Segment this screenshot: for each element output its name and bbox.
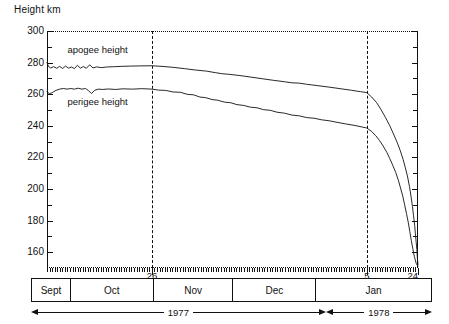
day-tick [67, 268, 68, 272]
day-tick [395, 268, 396, 272]
day-tick-major-24 [418, 268, 419, 275]
day-tick [270, 268, 271, 272]
day-tick [288, 268, 289, 272]
day-tick [259, 268, 260, 272]
year-rule [193, 312, 319, 313]
day-tick [47, 268, 48, 272]
day-tick [180, 268, 181, 272]
day-tick [403, 268, 404, 272]
day-tick [331, 268, 332, 272]
day-tick [183, 268, 184, 272]
day-tick [90, 268, 91, 272]
day-tick [234, 268, 235, 272]
day-tick [241, 268, 242, 272]
day-tick [349, 268, 350, 272]
day-tick [280, 268, 281, 272]
day-tick [334, 268, 335, 272]
year-rule [333, 312, 365, 313]
day-tick [254, 268, 255, 272]
series-apogee-height [47, 63, 418, 265]
day-tick [387, 268, 388, 272]
day-tick [382, 268, 383, 272]
year-rule [393, 312, 425, 313]
day-tick [285, 268, 286, 272]
y-tick-label-220: 220 [27, 152, 44, 162]
day-tick [272, 268, 273, 272]
day-tick [142, 268, 143, 272]
day-tick [203, 268, 204, 272]
day-tick [244, 268, 245, 272]
month-cell-oct: Oct [71, 279, 154, 301]
day-tick [398, 268, 399, 272]
day-tick [139, 268, 140, 272]
day-tick [116, 268, 117, 272]
y-tick-label-300: 300 [27, 26, 44, 36]
day-tick [262, 268, 263, 272]
arrow-left-icon [31, 309, 38, 315]
plot-area: 300280260240220200180160 apogee height p… [47, 31, 418, 268]
day-tick [252, 268, 253, 272]
day-tick [60, 268, 61, 272]
day-tick [52, 268, 53, 272]
day-tick [311, 268, 312, 272]
day-tick [377, 268, 378, 272]
year-label-1978: 1978 [364, 307, 393, 318]
day-tick [190, 268, 191, 272]
day-tick [336, 268, 337, 272]
day-tick [375, 268, 376, 272]
day-tick [351, 268, 352, 272]
day-tick [70, 268, 71, 272]
day-tick [231, 268, 232, 272]
day-tick [55, 268, 56, 272]
arrow-left-icon [326, 309, 333, 315]
day-tick [277, 268, 278, 272]
day-tick [282, 268, 283, 272]
day-tick [339, 268, 340, 272]
day-tick [188, 268, 189, 272]
day-tick [390, 268, 391, 272]
day-tick [229, 268, 230, 272]
day-tick [326, 268, 327, 272]
day-tick [80, 268, 81, 272]
day-tick [313, 268, 314, 272]
day-tick [198, 268, 199, 272]
day-tick [346, 268, 347, 272]
day-tick [73, 268, 74, 272]
day-tick [341, 268, 342, 272]
day-tick [295, 268, 296, 272]
series-lines [47, 31, 418, 268]
day-tick [405, 268, 406, 272]
day-tick [290, 268, 291, 272]
day-tick [83, 268, 84, 272]
year-rule [38, 312, 164, 313]
month-cell-jan: Jan [316, 279, 431, 301]
y-tick-label-180: 180 [27, 216, 44, 226]
day-tick [344, 268, 345, 272]
day-tick [400, 268, 401, 272]
month-cell-sept: Sept [32, 279, 71, 301]
day-tick [369, 268, 370, 272]
day-tick [321, 268, 322, 272]
y-tick-label-260: 260 [27, 89, 44, 99]
perigee-height-label: perigee height [67, 96, 127, 107]
day-tick [170, 268, 171, 272]
day-tick [119, 268, 120, 272]
day-tick [175, 268, 176, 272]
arrow-right-icon [319, 309, 326, 315]
day-tick [96, 268, 97, 272]
day-tick [303, 268, 304, 272]
day-tick [106, 268, 107, 272]
day-tick [300, 268, 301, 272]
day-tick [380, 268, 381, 272]
day-tick [298, 268, 299, 272]
day-tick [144, 268, 145, 272]
apogee-height-label: apogee height [67, 44, 127, 55]
day-tick [316, 268, 317, 272]
year-span-row: 19771978 [31, 303, 432, 321]
day-tick [124, 268, 125, 272]
day-tick [85, 268, 86, 272]
day-tick [126, 268, 127, 272]
day-tick [216, 268, 217, 272]
day-tick [78, 268, 79, 272]
month-cell-nov: Nov [154, 279, 234, 301]
